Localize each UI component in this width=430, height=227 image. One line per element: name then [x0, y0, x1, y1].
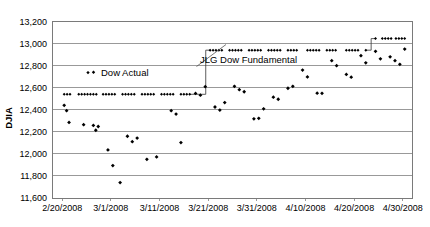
djia-scatter-chart: 13,20013,00012,80012,60012,40012,20012,0… — [0, 0, 430, 227]
y-tick-label: 12,600 — [19, 83, 47, 93]
y-axis-tick-labels: 13,20013,00012,80012,60012,40012,20012,0… — [19, 17, 47, 204]
y-tick-label: 12,800 — [19, 61, 47, 71]
x-tick-label: 3/31/2008 — [237, 203, 277, 213]
x-tick-label: 4/30/2008 — [383, 203, 423, 213]
callout-label-jlg-dow-fundamental: JLG Dow Fundamental — [200, 54, 297, 65]
x-tick-label: 4/20/2008 — [334, 203, 374, 213]
x-tick-label: 3/11/2008 — [140, 203, 179, 213]
y-axis-title: DJIA — [3, 107, 14, 129]
x-tick-label: 3/21/2008 — [188, 203, 228, 213]
x-tick-label: 4/10/2008 — [285, 203, 325, 213]
y-tick-label: 13,200 — [19, 17, 47, 27]
y-tick-label: 11,600 — [20, 193, 47, 203]
x-tick-label: 2/20/2008 — [42, 203, 82, 213]
chart-container: 13,20013,00012,80012,60012,40012,20012,0… — [0, 0, 430, 227]
legend-label-dow-actual: Dow Actual — [101, 67, 149, 78]
x-tick-label: 3/1/2008 — [93, 203, 128, 213]
y-tick-label: 12,200 — [19, 127, 47, 137]
y-tick-label: 12,000 — [19, 149, 47, 159]
chart-background — [0, 0, 430, 227]
y-tick-label: 11,800 — [20, 171, 47, 181]
y-tick-label: 12,400 — [19, 105, 47, 115]
y-tick-label: 13,000 — [19, 39, 47, 49]
